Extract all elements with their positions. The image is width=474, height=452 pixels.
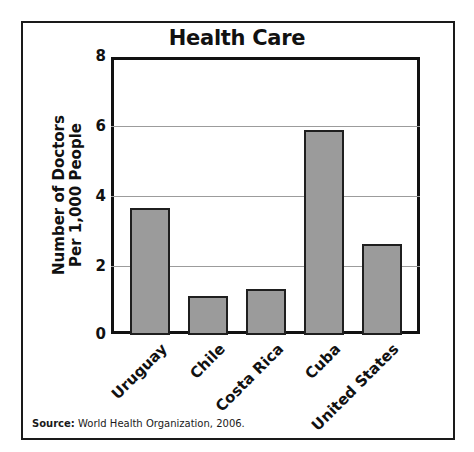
y-tick-0: 0 <box>84 326 106 342</box>
bar-united-states <box>362 244 402 335</box>
y-tick-2: 2 <box>84 258 106 274</box>
y-tick-8: 8 <box>84 48 106 64</box>
y-axis-label-line-1: Number of Doctors <box>51 115 68 275</box>
source-label: Source: <box>32 418 75 429</box>
bar-cuba <box>304 130 344 335</box>
bar-uruguay <box>130 208 170 335</box>
bar-costa-rica <box>246 289 286 335</box>
chart-title: Health Care <box>0 26 474 50</box>
y-tick-6: 6 <box>84 118 106 134</box>
source-note: Source: World Health Organization, 2006. <box>32 418 245 429</box>
gridline-6 <box>111 126 420 127</box>
bar-chile <box>188 296 228 335</box>
y-axis-label-line-2: Per 1,000 People <box>68 115 85 275</box>
y-tick-4: 4 <box>84 188 106 204</box>
gridline-4 <box>111 196 420 197</box>
source-text: World Health Organization, 2006. <box>78 418 245 429</box>
